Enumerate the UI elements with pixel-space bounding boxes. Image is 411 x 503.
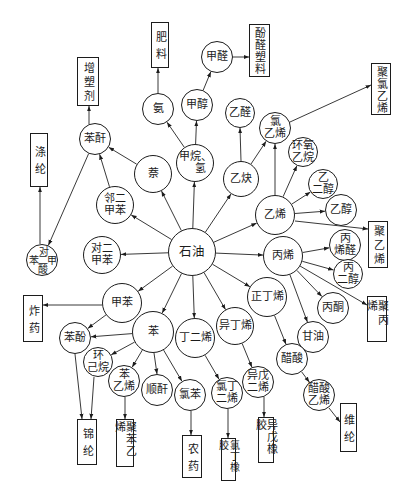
node-label-line2: 烯醛 [334, 245, 356, 257]
product-label: 炸药 [28, 305, 39, 339]
product-label: 锦纶 [82, 428, 93, 462]
node-label: 顺酐 [146, 384, 168, 396]
node-acetaldehyde: 乙醛 [225, 98, 255, 128]
product-label: 增塑剂 [83, 62, 94, 104]
node-label: 甲苯 [111, 297, 133, 309]
node-label-line2: 乙烯 [113, 381, 135, 393]
edge-naphthalene-phthalic-anhydride [109, 147, 137, 164]
node-label-line2: 二醇 [337, 274, 359, 286]
edge-phenol-nylon [75, 354, 82, 419]
edge-petroleum-butadiene [193, 276, 195, 318]
edge-petroleum-propylene [216, 253, 263, 255]
edge-n-butene-acetic-acid [275, 316, 287, 345]
product-label: 聚苯乙烯 [114, 421, 136, 466]
node-label-bottom: 酸 [38, 265, 48, 275]
edge-petroleum-isobutylene [204, 273, 225, 310]
node-acetylene: 乙炔 [223, 161, 259, 197]
node-label: 乙烯 [264, 209, 286, 221]
node-label: 异丁烯 [219, 320, 252, 332]
node-label: 正丁烯 [251, 291, 284, 303]
node-label: 甘油 [302, 331, 324, 343]
edge-propylene-propylene-glycol [302, 261, 333, 270]
node-label: 苯酐 [84, 133, 106, 145]
node-label-line2: 二醇 [312, 184, 334, 196]
edge-petroleum-benzene [162, 274, 181, 314]
node-toluene: 甲苯 [102, 283, 142, 323]
node-phenol: 苯酚 [59, 322, 91, 354]
node-isobutylene: 异丁烯 [216, 307, 254, 345]
node-label: 氨 [153, 103, 164, 115]
product-polystyrene: 聚苯乙烯 [116, 419, 134, 467]
product-isoprene-rubber: 异戊橡胶 [258, 417, 274, 463]
product-label: 聚乙烯 [373, 225, 384, 267]
node-label: 甲醛 [206, 51, 228, 63]
node-acrolein: 丙 烯醛 [329, 229, 361, 261]
node-ethanol: 乙醇 [325, 194, 357, 226]
product-label: 聚氯乙烯 [376, 66, 387, 114]
node-butadiene: 丁二烯 [175, 318, 215, 358]
product-polyethylene: 聚乙烯 [368, 221, 388, 268]
product-pesticide: 农药 [182, 435, 202, 478]
edge-petroleum-ethylene [214, 223, 257, 242]
node-vinyl-chloride: 氯 乙烯 [259, 112, 291, 144]
node-label: 苯 [148, 326, 159, 338]
node-petroleum: 石油 [168, 228, 216, 276]
edge-methanol-formaldehyde [203, 72, 211, 90]
node-ammonia: 氨 [142, 93, 174, 125]
product-vinylon: 维纶 [340, 403, 357, 452]
edge-petroleum-n-butene [213, 264, 250, 286]
node-o-xylene: 邻二 甲苯 [96, 186, 134, 224]
node-label: 苯酚 [64, 332, 86, 344]
node-maleic-anhydride: 顺酐 [141, 374, 173, 406]
product-label: 聚丙烯 [366, 300, 388, 341]
node-label-line2: 甲苯 [91, 255, 113, 267]
node-naphthalene: 萘 [134, 155, 172, 193]
node-label: 石油 [179, 246, 205, 258]
node-formaldehyde: 甲醛 [201, 41, 233, 73]
node-cyclohexane: 环 己烷 [83, 347, 113, 377]
node-benzene: 苯 [132, 311, 174, 353]
product-explosives: 炸药 [23, 295, 43, 342]
node-methanol: 甲醇 [181, 89, 213, 121]
edge-propylene-acetone [297, 270, 322, 296]
node-label-line2: 甲苯 [104, 205, 126, 217]
product-label: 酚醛塑料 [254, 27, 265, 75]
node-label: 甲醇 [186, 99, 208, 111]
product-phenolic-plastic: 酚醛塑料 [249, 24, 270, 77]
product-label: 涤纶 [34, 146, 45, 180]
edge-benzene-cyclohexane [111, 342, 134, 355]
edge-benzene-phenol [91, 334, 132, 337]
node-n-butene: 正丁烯 [247, 277, 287, 317]
edge-benzene-maleic-anhydride [154, 353, 157, 374]
node-terephthalic-acid: 对 苯 二 甲 酸 [26, 244, 58, 276]
node-label-line2: 乙烷 [292, 152, 314, 164]
node-label: 丙酮 [322, 302, 344, 314]
edge-petroleum-methane [193, 182, 195, 228]
node-vinyl-acetate: 醋酸 乙烯 [303, 379, 335, 411]
node-label-right: 甲 [47, 256, 57, 266]
petroleum-derivatives-diagram: 石油 萘 甲烷、 氢 氨 甲醇 甲醛 乙醛 乙炔 氯 乙烯 环氧 乙烷 乙烯 乙… [0, 0, 411, 503]
edge-ethylene-ethanol [295, 211, 325, 213]
node-ethylene-oxide: 环氧 乙烷 [288, 137, 318, 167]
edge-vinyl-chloride-pvc [290, 85, 371, 122]
node-label-line2: 己烷 [87, 362, 109, 374]
node-label-line2: 乙烯 [264, 128, 286, 140]
node-methane-hydrogen: 甲烷、 氢 [176, 144, 214, 182]
edge-o-xylene-phthalic-anhydride [100, 154, 110, 187]
edge-petroleum-toluene [138, 266, 172, 291]
node-chloroprene: 氯丁 二烯 [211, 377, 243, 409]
edge-toluene-phenol [88, 315, 106, 329]
edge-cyclohexane-nylon [91, 377, 94, 419]
edge-acetylene-acetaldehyde [240, 128, 241, 161]
edge-butadiene-chloroprene [205, 355, 219, 379]
product-nylon: 锦纶 [77, 419, 97, 465]
product-pvc: 聚氯乙烯 [371, 63, 391, 115]
edge-phthalic-anhydride-terephthalic-acid [48, 154, 88, 246]
node-label-line2: 二烯 [247, 382, 269, 394]
product-label: 氯丁橡胶 [218, 440, 240, 480]
product-chloroprene-rubber: 氯丁橡胶 [221, 438, 236, 481]
node-acetic-acid: 醋酸 [276, 343, 308, 375]
node-label: 乙炔 [230, 173, 252, 185]
node-label: 丙烯 [272, 250, 294, 262]
node-propylene-glycol: 丙 二醇 [333, 259, 363, 289]
